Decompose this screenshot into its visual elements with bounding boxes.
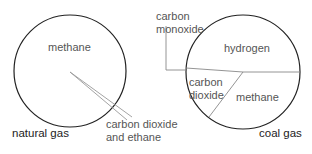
hydrogen-label: hydrogen — [224, 42, 270, 55]
co-label-line2: monoxide — [156, 23, 204, 36]
co2-label-line2: dioxide — [189, 89, 224, 102]
coal-gas-title: coal gas — [259, 127, 302, 140]
natural-gas-pie — [14, 15, 132, 127]
natural-gas-title: natural gas — [12, 127, 69, 140]
co2-label-line1: carbon — [189, 76, 223, 89]
co2-ethane-label-line2: and ethane — [106, 131, 161, 144]
methane-label-coal: methane — [236, 91, 279, 104]
co-label-line1: carbon — [156, 10, 190, 23]
methane-label-natural: methane — [48, 41, 91, 54]
co2-ethane-label-line1: carbon dioxide — [106, 118, 178, 131]
